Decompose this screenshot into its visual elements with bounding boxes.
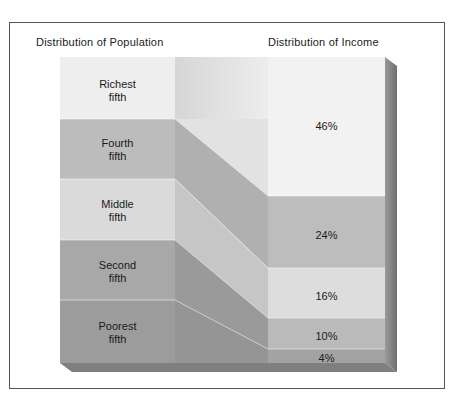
label-line: fifth (60, 272, 175, 285)
label-richest: Richest fifth (60, 78, 175, 104)
income-middle: 16% (268, 290, 385, 303)
label-line: Poorest (60, 320, 175, 333)
side-face (385, 57, 397, 372)
label-line: Middle (60, 198, 175, 211)
income-second: 10% (268, 330, 385, 343)
label-line: fifth (60, 91, 175, 104)
label-second: Second fifth (60, 259, 175, 285)
label-fourth: Fourth fifth (60, 137, 175, 163)
label-line: fifth (60, 211, 175, 224)
income-fourth: 24% (268, 229, 385, 242)
income-poorest: 4% (268, 352, 385, 365)
label-line: fifth (60, 333, 175, 346)
label-line: Fourth (60, 137, 175, 150)
income-richest: 46% (268, 120, 385, 133)
label-line: Second (60, 259, 175, 272)
label-line: Richest (60, 78, 175, 91)
label-line: fifth (60, 150, 175, 163)
label-poorest: Poorest fifth (60, 320, 175, 346)
label-middle: Middle fifth (60, 198, 175, 224)
